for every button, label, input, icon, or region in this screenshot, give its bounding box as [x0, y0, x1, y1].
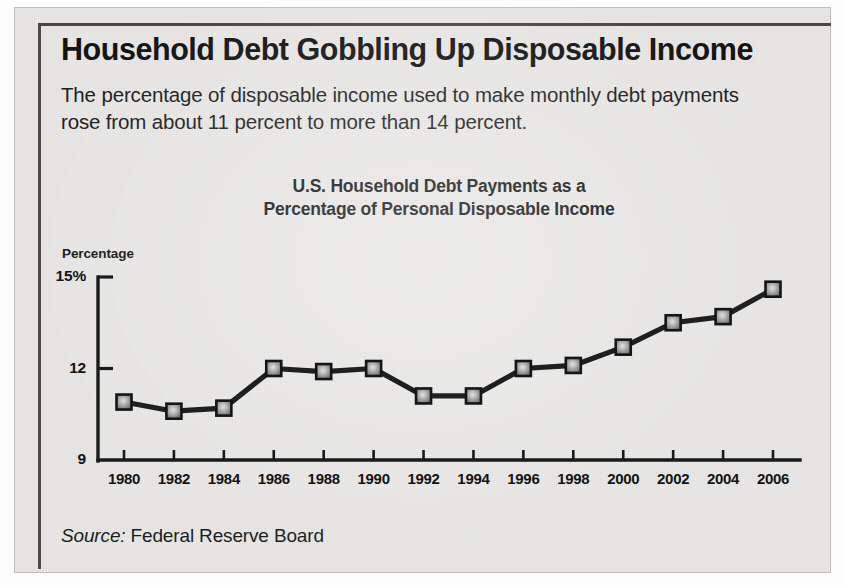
infographic-page: Household Debt Gobbling Up Disposable In… — [0, 0, 845, 585]
x-axis-tick-label: 2004 — [697, 470, 749, 487]
chart-title-line-1: U.S. Household Debt Payments as a — [134, 175, 744, 198]
panel-top-rule — [38, 23, 831, 26]
source-value: Federal Reserve Board — [131, 525, 324, 546]
panel-left-rule — [38, 23, 41, 569]
x-axis-tick-label: 1996 — [497, 470, 549, 487]
y-axis-tick-label: 9 — [32, 450, 86, 468]
headline: Household Debt Gobbling Up Disposable In… — [61, 33, 821, 66]
x-axis-tick-label: 1988 — [298, 470, 350, 487]
chart-panel: Household Debt Gobbling Up Disposable In… — [14, 7, 831, 573]
source-line: Source: Federal Reserve Board — [61, 525, 324, 547]
x-axis-tick-label: 1994 — [447, 470, 499, 487]
deck-text: The percentage of disposable income used… — [61, 82, 761, 135]
x-axis-tick-label: 1982 — [148, 470, 200, 487]
x-axis-tick-label: 1992 — [398, 470, 450, 487]
chart-title-line-2: Percentage of Personal Disposable Income — [134, 198, 744, 221]
x-axis-tick-label: 2000 — [597, 470, 649, 487]
chart-title: U.S. Household Debt Payments as a Percen… — [134, 175, 744, 221]
x-axis-tick-label: 1984 — [198, 470, 250, 487]
x-axis-tick-label: 1998 — [547, 470, 599, 487]
x-axis-tick-label: 1980 — [98, 470, 150, 487]
x-axis-tick-label: 1986 — [248, 470, 300, 487]
y-axis-title: Percentage — [62, 246, 134, 261]
source-label: Source: — [61, 525, 125, 546]
x-axis-tick-label: 2002 — [647, 470, 699, 487]
x-axis-tick-label: 2006 — [747, 470, 799, 487]
y-axis-tick-label: 15% — [32, 267, 86, 285]
x-axis-tick-label: 1990 — [348, 470, 400, 487]
y-axis-tick-label: 12 — [32, 359, 86, 377]
